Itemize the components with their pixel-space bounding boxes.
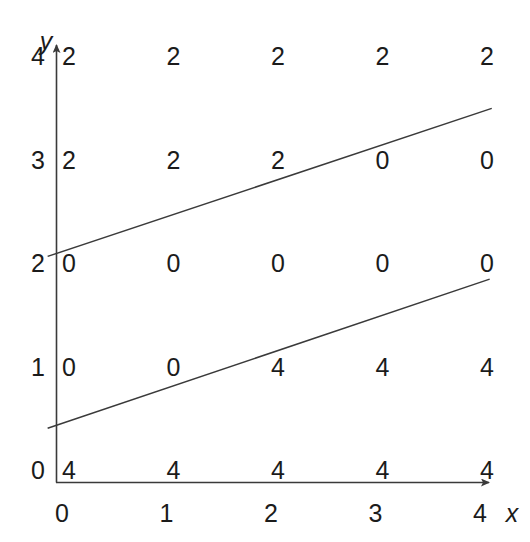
y-tick-label-1: 1	[31, 354, 45, 379]
cell-value: 4	[376, 458, 390, 483]
cell-value: 0	[271, 251, 285, 276]
upper-boundary-line	[48, 108, 492, 256]
x-tick-label-3: 3	[369, 501, 383, 526]
cell-value: 0	[480, 147, 494, 172]
x-axis-label: x	[506, 501, 519, 526]
cell-value: 2	[376, 44, 390, 69]
y-tick-label-3: 3	[31, 147, 45, 172]
grid-value-plot: y x 01234012342222222200000000044444444	[0, 0, 530, 542]
cell-value: 0	[167, 251, 181, 276]
cell-value: 2	[271, 147, 285, 172]
cell-value: 2	[167, 44, 181, 69]
x-tick-label-2: 2	[264, 501, 278, 526]
y-tick-label-0: 0	[31, 458, 45, 483]
cell-value: 4	[271, 458, 285, 483]
lower-boundary-line	[48, 279, 490, 428]
cell-value: 0	[376, 251, 390, 276]
cell-value: 0	[480, 251, 494, 276]
y-tick-label-2: 2	[31, 251, 45, 276]
cell-value: 4	[271, 354, 285, 379]
cell-value: 4	[480, 354, 494, 379]
cell-value: 4	[480, 458, 494, 483]
x-tick-label-1: 1	[160, 501, 174, 526]
cell-value: 2	[62, 147, 76, 172]
plot-svg	[0, 0, 530, 542]
cell-value: 4	[376, 354, 390, 379]
cell-value: 2	[271, 44, 285, 69]
cell-value: 0	[167, 354, 181, 379]
cell-value: 2	[167, 147, 181, 172]
cell-value: 4	[167, 458, 181, 483]
cell-value: 4	[62, 458, 76, 483]
x-tick-label-4: 4	[473, 501, 487, 526]
cell-value: 0	[62, 251, 76, 276]
y-tick-label-4: 4	[31, 44, 45, 69]
cell-value: 0	[376, 147, 390, 172]
cell-value: 0	[62, 354, 76, 379]
x-tick-label-0: 0	[55, 501, 69, 526]
cell-value: 2	[62, 44, 76, 69]
cell-value: 2	[480, 44, 494, 69]
